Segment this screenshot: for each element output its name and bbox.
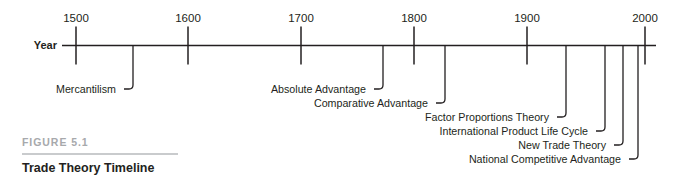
event-label-6: New Trade Theory bbox=[518, 139, 606, 151]
tick-label-2000: 2000 bbox=[632, 12, 658, 24]
tick-label-1600: 1600 bbox=[175, 12, 201, 24]
tick-group: 150016001700180019002000 bbox=[63, 12, 658, 65]
leader-line-2 bbox=[374, 46, 383, 90]
caption-divider bbox=[22, 153, 178, 155]
figure-title-label: Trade Theory Timeline bbox=[22, 161, 322, 176]
event-label-2: Absolute Advantage bbox=[271, 83, 366, 95]
tick-label-1500: 1500 bbox=[63, 12, 89, 24]
tick-label-1900: 1900 bbox=[514, 12, 540, 24]
tick-label-1800: 1800 bbox=[401, 12, 427, 24]
trade-theory-timeline-figure: Year 150016001700180019002000 Mercantili… bbox=[0, 0, 691, 187]
leader-line-3 bbox=[436, 46, 445, 104]
tick-label-1700: 1700 bbox=[288, 12, 314, 24]
leader-line-6 bbox=[614, 46, 623, 146]
leader-line-1 bbox=[124, 46, 133, 90]
event-label-3: Comparative Advantage bbox=[314, 97, 428, 109]
event-label-4: Factor Proportions Theory bbox=[425, 111, 550, 123]
event-label-5: International Product Life Cycle bbox=[439, 125, 588, 137]
leader-line-7 bbox=[629, 46, 638, 160]
figure-caption: FIGURE 5.1 Trade Theory Timeline bbox=[22, 136, 322, 176]
event-label-1: Mercantilism bbox=[56, 83, 116, 95]
leader-line-5 bbox=[596, 46, 605, 132]
axis-name-label: Year bbox=[34, 39, 58, 51]
leader-line-4 bbox=[557, 46, 566, 118]
event-label-7: National Competitive Advantage bbox=[469, 153, 621, 165]
figure-number-label: FIGURE 5.1 bbox=[22, 136, 322, 149]
